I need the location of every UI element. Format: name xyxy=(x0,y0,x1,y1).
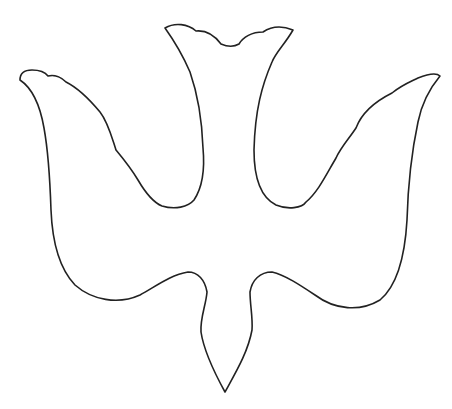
dove-outline-path xyxy=(20,24,440,392)
dove-outline-drawing xyxy=(0,0,452,409)
